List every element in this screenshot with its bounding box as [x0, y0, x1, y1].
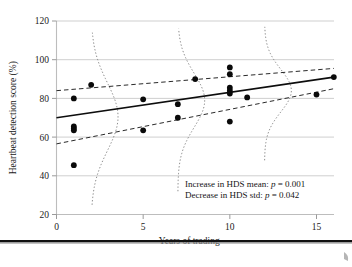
annotation-std-trend: Decrease in HDS std: p = 0.042 [185, 190, 299, 200]
data-point [331, 74, 337, 80]
y-tick-label-100: 100 [35, 55, 50, 65]
y-axis-title: Heartbeat detection score (%) [8, 61, 19, 174]
data-point [71, 162, 77, 168]
page-edge-shadow [0, 242, 352, 243]
x-tick-label-5: 5 [141, 222, 146, 232]
y-tick-label-120: 120 [35, 16, 50, 26]
y-tick-label-20: 20 [40, 210, 50, 220]
page-edge-bar [0, 240, 352, 242]
y-tick-label-40: 40 [40, 171, 50, 181]
data-point [227, 119, 233, 125]
annotation-mean-trend: Increase in HDS mean: p = 0.001 [185, 179, 305, 189]
data-point [71, 96, 77, 102]
y-tick-label-60: 60 [40, 133, 50, 143]
data-point [140, 96, 146, 102]
x-tick-label-10: 10 [225, 222, 235, 232]
x-tick-label-15: 15 [312, 222, 322, 232]
data-point [71, 127, 77, 133]
y-tick-label-80: 80 [40, 94, 50, 104]
chart-background [0, 0, 352, 267]
scatter-chart-figure: 20406080100120051015Years of tradingHear… [0, 0, 352, 267]
data-point [227, 71, 233, 77]
x-tick-label-0: 0 [54, 222, 59, 232]
data-point [175, 115, 181, 121]
data-point [227, 91, 233, 97]
data-point [227, 65, 233, 71]
data-point [244, 95, 250, 101]
chart-canvas: 20406080100120051015Years of tradingHear… [0, 0, 352, 267]
data-point [314, 92, 320, 98]
data-point [192, 76, 198, 82]
data-point [175, 101, 181, 107]
data-point [140, 127, 146, 133]
data-point [88, 82, 94, 88]
